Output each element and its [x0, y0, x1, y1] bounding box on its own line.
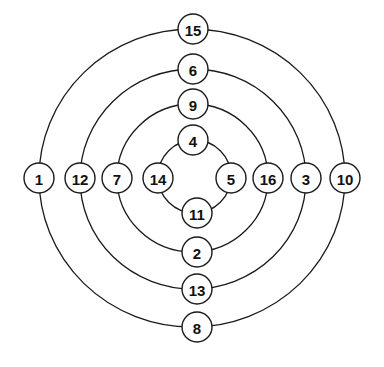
node-16: 16 [253, 163, 283, 193]
node-11: 11 [182, 198, 212, 228]
node-label: 4 [189, 133, 198, 150]
node-8: 8 [182, 312, 212, 342]
node-14: 14 [143, 163, 173, 193]
node-label: 16 [260, 171, 277, 188]
node-label: 6 [189, 62, 197, 79]
node-7: 7 [102, 163, 132, 193]
node-label: 9 [189, 97, 197, 114]
node-label: 13 [189, 282, 206, 299]
concentric-ring-diagram: 15108163131291627451114 [0, 0, 384, 367]
node-label: 3 [302, 171, 310, 188]
node-3: 3 [291, 163, 321, 193]
nodes-layer: 15108163131291627451114 [24, 14, 360, 342]
node-9: 9 [178, 89, 208, 119]
node-label: 14 [150, 171, 167, 188]
node-label: 5 [227, 171, 235, 188]
node-label: 15 [185, 22, 202, 39]
node-13: 13 [182, 274, 212, 304]
node-label: 8 [193, 320, 201, 337]
node-label: 11 [189, 206, 205, 223]
node-1: 1 [24, 163, 54, 193]
node-12: 12 [65, 163, 95, 193]
node-15: 15 [178, 14, 208, 44]
node-2: 2 [182, 237, 212, 267]
node-6: 6 [178, 54, 208, 84]
node-label: 12 [72, 171, 89, 188]
node-label: 1 [35, 171, 43, 188]
node-10: 10 [330, 163, 360, 193]
node-label: 7 [113, 171, 121, 188]
node-label: 2 [193, 245, 201, 262]
node-5: 5 [216, 163, 246, 193]
node-label: 10 [337, 171, 354, 188]
node-4: 4 [178, 125, 208, 155]
